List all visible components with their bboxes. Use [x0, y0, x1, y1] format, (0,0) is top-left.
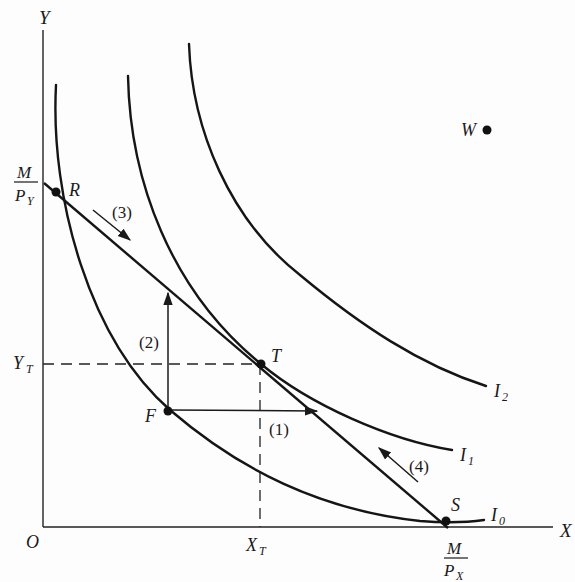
arrow-1 — [168, 410, 317, 411]
curve-label-i1: I 1 — [459, 445, 474, 468]
axes — [43, 30, 553, 527]
origin-label: O — [26, 532, 39, 552]
point-f-label: F — [144, 406, 157, 426]
curve-label-i2: I 2 — [493, 381, 508, 404]
y-t-label: Y T — [13, 353, 34, 376]
y-axis-label: Y — [39, 7, 52, 28]
budget-line — [44, 183, 448, 528]
svg-text:T: T — [26, 362, 34, 376]
y-intercept-label: M P Y — [14, 163, 38, 208]
svg-text:T: T — [259, 544, 267, 558]
svg-text:X: X — [245, 535, 258, 555]
svg-text:1: 1 — [468, 454, 474, 468]
point-s — [442, 517, 451, 526]
point-f — [164, 407, 173, 416]
arrow-4-label: (4) — [409, 457, 429, 476]
svg-text:P: P — [443, 561, 454, 580]
svg-text:P: P — [14, 186, 25, 205]
point-r — [52, 188, 61, 197]
svg-text:2: 2 — [502, 390, 508, 404]
point-w-label: W — [461, 120, 478, 140]
arrow-3-label: (3) — [112, 203, 132, 222]
point-s-label: S — [451, 495, 460, 515]
svg-text:I: I — [493, 381, 501, 401]
point-r-label: R — [68, 180, 80, 200]
svg-text:I: I — [490, 505, 498, 525]
svg-text:X: X — [455, 569, 464, 582]
indifference-curve-diagram: Y X O M P Y M P X Y T X T (3) (2) (1) (4 — [0, 0, 575, 582]
svg-text:M: M — [16, 163, 32, 182]
arrow-1-label: (1) — [269, 420, 289, 439]
x-t-label: X T — [245, 535, 267, 558]
arrow-2-label: (2) — [139, 333, 159, 352]
svg-text:Y: Y — [27, 194, 35, 208]
indifference-curve-i2 — [189, 44, 486, 386]
curve-label-i0: I 0 — [490, 505, 505, 528]
svg-text:Y: Y — [13, 353, 25, 373]
svg-text:M: M — [446, 539, 462, 558]
svg-text:I: I — [459, 445, 467, 465]
x-intercept-label: M P X — [443, 539, 468, 582]
point-t-label: T — [271, 346, 283, 366]
point-w — [483, 126, 492, 135]
x-axis-label: X — [559, 520, 573, 541]
point-t — [257, 360, 266, 369]
svg-text:0: 0 — [499, 514, 505, 528]
